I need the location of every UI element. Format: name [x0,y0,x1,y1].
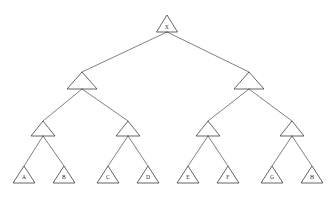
tree-edge [208,136,228,166]
triangle-node-icon [280,121,304,136]
tree-edge [82,32,167,72]
tree-leaf-h-label: H [310,174,314,180]
node-layer: XABCDEFGH [13,15,323,183]
triangle-node-icon [31,121,55,136]
triangle-node-icon [196,121,220,136]
tree-edge [24,136,43,166]
tree-node-n3-c[interactable] [196,121,220,136]
triangle-node-icon [116,121,140,136]
tree-leaf-e-label: E [186,174,190,180]
tree-leaf-g-label: G [270,174,274,180]
binary-tree-diagram: XABCDEFGH [0,0,335,200]
tree-node-n3-a[interactable] [31,121,55,136]
tree-leaf-c[interactable]: C [97,166,119,183]
tree-leaf-f[interactable]: F [217,166,239,183]
tree-edge [292,136,312,166]
tree-edge [43,89,82,121]
tree-node-n3-b[interactable] [116,121,140,136]
tree-edge [43,136,64,166]
tree-edge [167,32,249,72]
tree-edge [128,136,148,166]
tree-edge [249,89,292,121]
tree-leaf-a[interactable]: A [13,166,35,183]
tree-edge [108,136,128,166]
diagram-canvas: XABCDEFGH [0,0,335,200]
tree-leaf-h[interactable]: H [301,166,323,183]
tree-leaf-d-label: D [146,174,150,180]
tree-edge [272,136,292,166]
tree-leaf-b-label: B [62,174,66,180]
tree-edge [82,89,128,121]
tree-node-n2-left[interactable] [67,72,97,89]
triangle-node-icon [234,72,264,89]
tree-leaf-c-label: C [106,174,110,180]
tree-edge [188,136,208,166]
tree-node-root-label: X [165,24,169,30]
tree-leaf-e[interactable]: E [177,166,199,183]
tree-leaf-f-label: F [226,174,229,180]
tree-node-n3-d[interactable] [280,121,304,136]
tree-leaf-d[interactable]: D [137,166,159,183]
tree-leaf-b[interactable]: B [53,166,75,183]
tree-edge [208,89,249,121]
tree-leaf-g[interactable]: G [261,166,283,183]
edge-layer [24,32,312,166]
tree-node-root[interactable]: X [157,15,178,32]
tree-leaf-a-label: A [22,174,26,180]
tree-node-n2-right[interactable] [234,72,264,89]
triangle-node-icon [67,72,97,89]
